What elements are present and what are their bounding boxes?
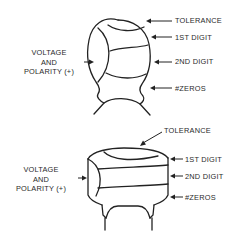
bottom-tolerance-label: TOLERANCE (164, 126, 211, 136)
label-line: AND (5, 175, 77, 185)
bottom-2nd-digit-label: 2ND DIGIT (185, 172, 223, 182)
bottom-voltage-polarity-label: VOLTAGE AND POLARITY (+) (5, 165, 77, 194)
label-line: VOLTAGE (14, 48, 84, 58)
bottom-arrows (78, 132, 183, 200)
top-arrows (84, 19, 172, 91)
disc-capacitor-icon (88, 148, 168, 230)
label-line: AND (14, 58, 84, 68)
label-line: VOLTAGE (5, 165, 77, 175)
top-1st-digit-label: 1ST DIGIT (175, 33, 212, 43)
bottom-1st-digit-label: 1ST DIGIT (185, 155, 222, 165)
top-zeros-label: #ZEROS (175, 84, 206, 94)
capacitor-color-code-diagram: VOLTAGE AND POLARITY (+) TOLERANCE 1ST D… (0, 0, 246, 241)
label-line: POLARITY (+) (5, 184, 77, 194)
top-2nd-digit-label: 2ND DIGIT (175, 57, 213, 67)
teardrop-capacitor-icon (88, 19, 150, 115)
bottom-zeros-label: #ZEROS (185, 193, 216, 203)
top-tolerance-label: TOLERANCE (175, 16, 222, 26)
top-voltage-polarity-label: VOLTAGE AND POLARITY (+) (14, 48, 84, 77)
label-line: POLARITY (+) (14, 67, 84, 77)
